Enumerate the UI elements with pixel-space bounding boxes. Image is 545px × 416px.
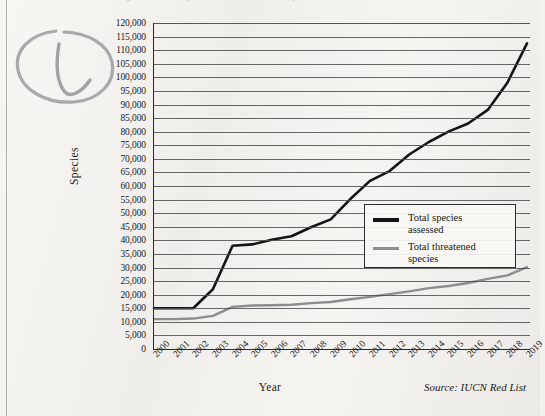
gridline (153, 335, 530, 336)
gridline (153, 200, 530, 201)
legend-label-assessed-line1: Total species (408, 212, 462, 224)
legend-label-assessed: Total species assessed (408, 212, 462, 235)
y-axis-tick: 120,000 (116, 18, 146, 28)
y-axis-tick: 75,000 (120, 140, 146, 150)
gridline (153, 308, 530, 309)
y-axis-tick: 85,000 (120, 113, 146, 123)
source-note: Source: IUCN Red List (424, 381, 526, 393)
legend-swatch-black (373, 218, 399, 222)
y-axis-tick: 115,000 (116, 32, 146, 42)
y-axis-tick: 80,000 (120, 127, 146, 137)
y-axis-tick: 95,000 (120, 86, 146, 96)
y-axis-tick: 45,000 (120, 222, 146, 232)
chart-legend: Total species assessed Total threatened … (364, 204, 516, 268)
legend-label-assessed-line2: assessed (408, 224, 462, 236)
gridline (153, 91, 530, 92)
y-axis-tick: 60,000 (120, 181, 146, 191)
legend-swatch-gray (373, 247, 399, 250)
y-axis-tick: 35,000 (120, 249, 146, 259)
gridline (153, 132, 530, 133)
gridline (153, 172, 530, 173)
series-line-total-species-assessed (154, 43, 527, 308)
cut-off-caption: Figure: Numbers of species assessed and … (120, 0, 420, 1)
legend-label-threatened-line1: Total threatened (408, 241, 476, 253)
page-gutter-line (6, 0, 7, 416)
y-axis-tick: 10,000 (120, 317, 146, 327)
y-axis-tick: 40,000 (120, 235, 146, 245)
y-axis-line (153, 23, 154, 350)
gridline (153, 145, 530, 146)
y-axis-tick: 25,000 (120, 276, 146, 286)
gridline (153, 105, 530, 106)
gridline (153, 118, 530, 119)
legend-label-threatened: Total threatened species (408, 241, 476, 264)
y-axis-tick: 50,000 (120, 208, 146, 218)
y-axis-tick: 65,000 (120, 167, 146, 177)
y-axis-tick-labels: 120,000115,000110,000105,000100,00095,00… (88, 23, 150, 350)
y-axis-tick: 20,000 (120, 290, 146, 300)
y-axis-tick: 100,000 (116, 72, 146, 82)
gridline (153, 77, 530, 78)
y-axis-tick: 5,000 (125, 330, 146, 340)
y-axis-tick: 30,000 (120, 263, 146, 273)
y-axis-tick: 15,000 (120, 303, 146, 313)
legend-item-total-species-assessed: Total species assessed (373, 212, 509, 235)
legend-item-total-threatened-species: Total threatened species (373, 241, 509, 264)
y-axis-tick: 110,000 (116, 45, 146, 55)
y-axis-label: Species (68, 147, 80, 185)
gridline (153, 295, 530, 296)
legend-label-threatened-line2: species (408, 253, 476, 265)
gridline (153, 23, 530, 24)
y-axis-tick: 90,000 (120, 100, 146, 110)
gridline (153, 64, 530, 65)
gridline (153, 50, 530, 51)
gridline (153, 159, 530, 160)
plot-area (153, 23, 530, 350)
gridline (153, 322, 530, 323)
y-axis-tick: 70,000 (120, 154, 146, 164)
gridline (153, 186, 530, 187)
gridline (153, 281, 530, 282)
y-axis-tick: 105,000 (116, 59, 146, 69)
y-axis-tick: 55,000 (120, 195, 146, 205)
y-axis-tick: 0 (141, 344, 146, 354)
gridline (153, 37, 530, 38)
